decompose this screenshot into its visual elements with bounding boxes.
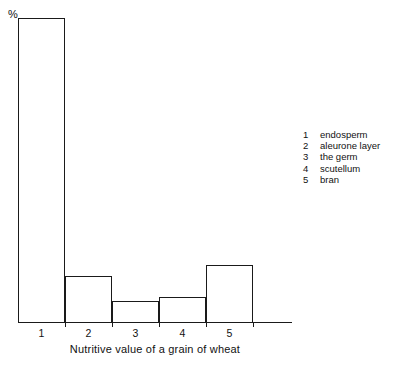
legend-label-2: aleurone layer [320,140,380,151]
legend-label-1: endosperm [320,129,380,140]
legend-label-4: scutellum [320,163,380,174]
bar-1 [18,18,65,322]
legend-item-2: 2aleurone layer [303,140,380,151]
bar-3 [112,301,159,322]
bar-5 [206,265,253,322]
legend-label-5: bran [320,174,380,185]
bar-series [18,18,292,322]
legend: 1endosperm2aleurone layer3the germ4scute… [303,129,380,185]
x-axis-tick-label-4: 4 [159,327,206,340]
legend-item-5: 5bran [303,174,380,185]
x-axis-tick-label-3: 3 [112,327,159,340]
legend-label-3: the germ [320,151,380,162]
x-axis-tick-label-2: 2 [65,327,112,340]
legend-item-3: 3the germ [303,151,380,162]
legend-key-5: 5 [303,174,320,185]
legend-item-4: 4scutellum [303,163,380,174]
bar-2 [65,276,112,322]
legend-key-3: 3 [303,151,320,162]
legend-key-4: 4 [303,163,320,174]
legend-item-1: 1endosperm [303,129,380,140]
x-axis-tick-label-1: 1 [18,327,65,340]
legend-key-2: 2 [303,140,320,151]
x-axis-tick-label-5: 5 [206,327,253,340]
x-axis-caption: Nutritive value of a grain of wheat [18,342,292,356]
legend-key-1: 1 [303,129,320,140]
x-axis-tick-5 [253,322,254,327]
x-axis-line [18,322,292,323]
bar-4 [159,297,206,322]
chart-figure: % 12345 Nutritive value of a grain of wh… [0,0,402,368]
y-axis-label: % [8,8,17,20]
